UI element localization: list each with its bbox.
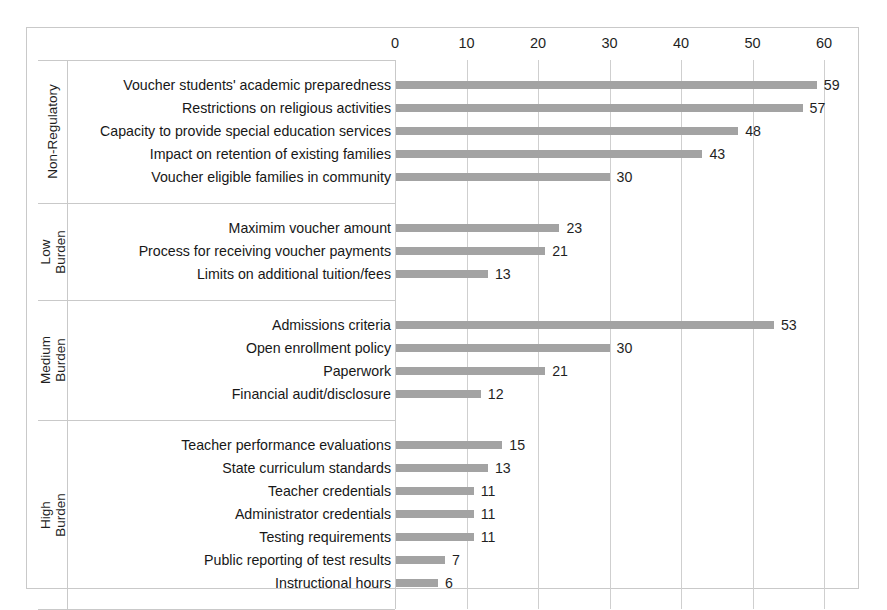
chart-group: HighBurdenTeacher performance evaluation… [27,420,860,609]
x-tick-60: 60 [804,34,844,52]
bar-value-label: 48 [745,120,761,143]
bar-value-label: 7 [452,549,460,572]
chart-row[interactable]: Administrator credentials11 [27,503,860,526]
bar[interactable] [395,344,610,352]
bar[interactable] [395,270,488,278]
bar[interactable] [395,464,488,472]
bar[interactable] [395,150,702,158]
bar-value-label: 53 [781,314,797,337]
category-label: Impact on retention of existing families [71,143,391,166]
bar[interactable] [395,104,803,112]
category-label: Limits on additional tuition/fees [71,263,391,286]
category-label: Process for receiving voucher payments [71,240,391,263]
category-label: Open enrollment policy [71,337,391,360]
chart-row[interactable]: Maximim voucher amount23 [27,217,860,240]
category-label: Administrator credentials [71,503,391,526]
bar[interactable] [395,367,545,375]
bar-value-label: 21 [552,240,568,263]
chart-row[interactable]: Voucher eligible families in community30 [27,166,860,189]
label-box-top-border [38,60,395,61]
chart-row[interactable]: Restrictions on religious activities57 [27,97,860,120]
bar-value-label: 11 [481,503,496,526]
x-tick-0: 0 [375,34,415,52]
category-label: State curriculum standards [71,457,391,480]
chart-row[interactable]: Open enrollment policy30 [27,337,860,360]
bar[interactable] [395,487,474,495]
group-separator [38,300,395,301]
category-label: Maximim voucher amount [71,217,391,240]
plot-area: Non-RegulatoryVoucher students' academic… [27,60,860,589]
chart-row[interactable]: Public reporting of test results7 [27,549,860,572]
category-label: Financial audit/disclosure [71,383,391,406]
bar[interactable] [395,556,445,564]
chart-row[interactable]: Impact on retention of existing families… [27,143,860,166]
bar[interactable] [395,321,774,329]
bar[interactable] [395,224,559,232]
chart-figure: 0102030405060 Non-RegulatoryVoucher stud… [26,27,859,589]
x-tick-20: 20 [518,34,558,52]
category-label: Teacher performance evaluations [71,434,391,457]
bar[interactable] [395,127,738,135]
bar-value-label: 30 [617,337,633,360]
bar-value-label: 59 [824,74,840,97]
category-label: Voucher students' academic preparedness [71,74,391,97]
chart-row[interactable]: Teacher performance evaluations15 [27,434,860,457]
bar[interactable] [395,510,474,518]
bar[interactable] [395,579,438,587]
category-label: Public reporting of test results [71,549,391,572]
category-label: Admissions criteria [71,314,391,337]
chart-group: MediumBurdenAdmissions criteria53Open en… [27,300,860,420]
bar-value-label: 30 [617,166,633,189]
x-tick-30: 30 [590,34,630,52]
category-label: Teacher credentials [71,480,391,503]
chart-row[interactable]: Testing requirements11 [27,526,860,549]
chart-row[interactable]: Financial audit/disclosure12 [27,383,860,406]
chart-row[interactable]: Voucher students' academic preparedness5… [27,74,860,97]
bar[interactable] [395,441,502,449]
bar-value-label: 23 [566,217,582,240]
chart-row[interactable]: State curriculum standards13 [27,457,860,480]
bar-value-label: 21 [552,360,568,383]
chart-group: Non-RegulatoryVoucher students' academic… [27,60,860,203]
chart-row[interactable]: Process for receiving voucher payments21 [27,240,860,263]
chart-group: LowBurdenMaximim voucher amount23Process… [27,203,860,300]
group-separator [38,420,395,421]
bar[interactable] [395,247,545,255]
x-tick-10: 10 [447,34,487,52]
chart-row[interactable]: Limits on additional tuition/fees13 [27,263,860,286]
category-label: Instructional hours [71,572,391,595]
x-axis-tick-labels: 0102030405060 [27,28,860,60]
bar[interactable] [395,533,474,541]
bar-value-label: 11 [481,480,496,503]
bar[interactable] [395,81,817,89]
bar[interactable] [395,173,610,181]
label-box-right-border [395,60,396,609]
bar-value-label: 43 [709,143,725,166]
bar-value-label: 6 [445,572,453,595]
x-tick-50: 50 [733,34,773,52]
bar-value-label: 13 [495,457,511,480]
chart-row[interactable]: Teacher credentials11 [27,480,860,503]
category-label: Voucher eligible families in community [71,166,391,189]
bar-value-label: 13 [495,263,511,286]
chart-row[interactable]: Capacity to provide special education se… [27,120,860,143]
bar-value-label: 12 [488,383,504,406]
category-label: Restrictions on religious activities [71,97,391,120]
chart-row[interactable]: Admissions criteria53 [27,314,860,337]
chart-row[interactable]: Instructional hours6 [27,572,860,595]
category-label: Testing requirements [71,526,391,549]
group-separator [38,203,395,204]
category-label: Capacity to provide special education se… [71,120,391,143]
group-gutter-rule [67,60,68,609]
category-label: Paperwork [71,360,391,383]
x-tick-40: 40 [661,34,701,52]
chart-row[interactable]: Paperwork21 [27,360,860,383]
bar-value-label: 11 [481,526,496,549]
bar-value-label: 15 [509,434,525,457]
bar-value-label: 57 [810,97,826,120]
bar[interactable] [395,390,481,398]
